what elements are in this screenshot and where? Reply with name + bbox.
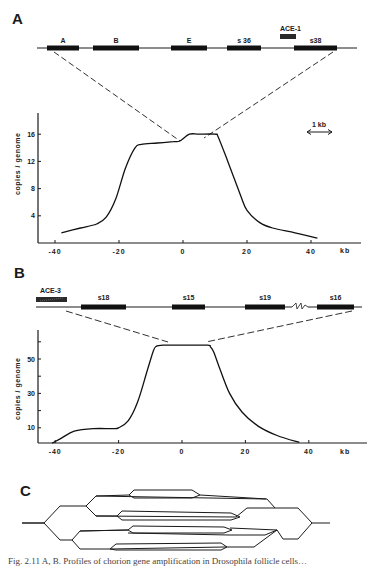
x-tick-label: -20	[112, 248, 125, 255]
scale-bar-label: 1 kb	[312, 121, 326, 128]
x-tick-label: -40	[48, 248, 61, 255]
ace1-label: ACE-1	[280, 25, 301, 32]
gene-bar	[81, 305, 126, 310]
x-tick-label: 0	[180, 448, 185, 455]
profile-curve-a	[61, 134, 317, 238]
y-axis-title-b: copies / genome	[14, 358, 22, 420]
gene-bar	[317, 305, 354, 310]
gene-bar	[245, 305, 285, 310]
gene-label: E	[187, 37, 192, 44]
y-tick-label: 10	[27, 424, 35, 431]
gene-label: s 36	[237, 37, 251, 44]
figure-caption: Fig. 2.11 A, B. Profiles of chorion gene…	[8, 556, 378, 566]
gene-bar	[93, 46, 139, 51]
y-tick-label: 50	[27, 356, 35, 363]
figure: A ABEs 36s38 ACE-1 -40-2002040481216 cop…	[0, 0, 378, 568]
y-axis-title-a: copies / genome	[14, 133, 22, 195]
gene-label: A	[60, 37, 65, 44]
chart-a: -40-2002040481216 copies / genome kb 1 k…	[14, 113, 361, 255]
gene-label: s19	[259, 294, 271, 301]
y-tick-label: 8	[31, 185, 35, 192]
gene-label: s18	[98, 294, 110, 301]
x-unit-b: kb	[340, 448, 350, 455]
gene-map-b: s18s15s19s16 ACE-3	[36, 287, 362, 342]
gene-label: s38	[310, 37, 322, 44]
x-tick-label: -40	[49, 448, 62, 455]
y-tick-label: 12	[27, 158, 35, 165]
panel-label-b: B	[14, 264, 25, 281]
gene-label: s15	[183, 294, 195, 301]
gene-map-a: ABEs 36s38 ACE-1	[37, 25, 357, 141]
zoom-line-right-b	[206, 311, 352, 342]
profile-curve-b	[52, 345, 299, 443]
y-tick-label: 4	[31, 212, 35, 219]
gene-bar	[47, 46, 79, 51]
ace3-box	[36, 297, 67, 302]
gene-bar	[172, 305, 205, 310]
gene-label: B	[113, 37, 118, 44]
scale-bar: 1 kb	[307, 121, 332, 135]
x-tick-label: 20	[241, 448, 251, 455]
x-tick-label: 40	[304, 448, 314, 455]
y-tick-label: 16	[27, 131, 35, 138]
gene-bar	[227, 46, 261, 51]
x-tick-label: 40	[306, 248, 316, 255]
break-mark	[292, 303, 308, 309]
x-tick-label: 0	[181, 248, 186, 255]
gene-bar	[294, 46, 337, 51]
x-tick-label: -20	[112, 448, 125, 455]
x-unit-a: kb	[340, 247, 350, 254]
zoom-line-left-b	[66, 311, 168, 342]
onion-skin-diagram	[22, 490, 330, 550]
x-tick-label: 20	[242, 248, 252, 255]
panel-label-a: A	[12, 10, 23, 27]
gene-label: s16	[330, 294, 342, 301]
ace3-label: ACE-3	[40, 287, 61, 294]
zoom-line-left	[54, 52, 180, 141]
gene-bar	[171, 46, 207, 51]
y-tick-label: 30	[27, 390, 35, 397]
panel-label-c: C	[20, 482, 31, 499]
ace1-box	[280, 34, 296, 39]
chart-b: -40-2002040103050 copies / genome kb	[14, 330, 367, 455]
